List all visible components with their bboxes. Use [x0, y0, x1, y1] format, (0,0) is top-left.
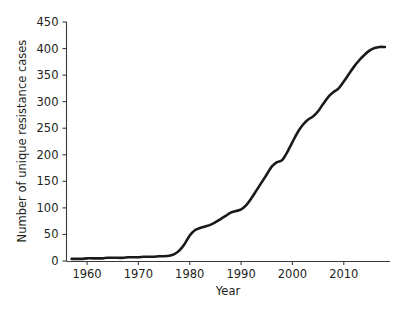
x-tick-label: 2010 [329, 267, 358, 281]
y-tick-label: 400 [37, 42, 59, 56]
chart-figure: 050100150200250300350400450 196019701980… [0, 0, 405, 310]
x-tick-label: 1990 [226, 267, 255, 281]
x-axis: 196019701980199020002010 [67, 261, 391, 281]
x-tick-group: 196019701980199020002010 [72, 261, 358, 281]
y-tick-label: 250 [37, 121, 59, 135]
series-group [72, 47, 385, 259]
x-tick-label: 1960 [72, 267, 101, 281]
y-tick-label: 0 [51, 254, 58, 268]
series-line-unique-resistance-cases [72, 47, 385, 259]
y-tick-label: 100 [37, 201, 59, 215]
x-axis-title: Year [215, 284, 241, 298]
y-tick-label: 450 [37, 15, 59, 29]
line-chart-canvas: 050100150200250300350400450 196019701980… [0, 0, 405, 310]
x-tick-label: 1970 [124, 267, 153, 281]
x-tick-label: 1980 [175, 267, 204, 281]
y-tick-label: 50 [44, 227, 59, 241]
x-tick-label: 2000 [278, 267, 307, 281]
y-tick-label: 350 [37, 68, 59, 82]
y-tick-label: 300 [37, 95, 59, 109]
y-tick-label: 150 [37, 174, 59, 188]
y-tick-group: 050100150200250300350400450 [37, 15, 67, 268]
y-axis: 050100150200250300350400450 [37, 15, 67, 268]
y-tick-label: 200 [37, 148, 59, 162]
y-axis-title: Number of unique resistance cases [15, 40, 29, 243]
